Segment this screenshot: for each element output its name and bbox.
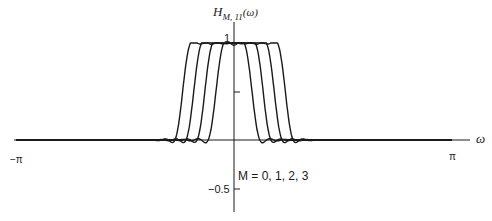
x-tick-label-pi: π [449,151,456,162]
y-axis-label-sub: M, 11 [222,12,242,22]
y-tick-label-neg-half: −0.5 [208,184,230,195]
legend-annotation: M = 0, 1, 2, 3 [238,171,308,182]
x-tick-label-neg-pi: −π [10,154,23,165]
legend-text: M = 0, 1, 2, 3 [238,169,308,183]
y-tick-label-one: 1 [224,33,230,44]
y-axis-label-arg: (ω) [243,6,258,18]
y-axis-label-main: H [213,4,222,19]
x-axis-label: ω [476,133,485,144]
frequency-response-chart [0,0,492,221]
y-axis-label: HM, 11(ω) [213,6,258,23]
